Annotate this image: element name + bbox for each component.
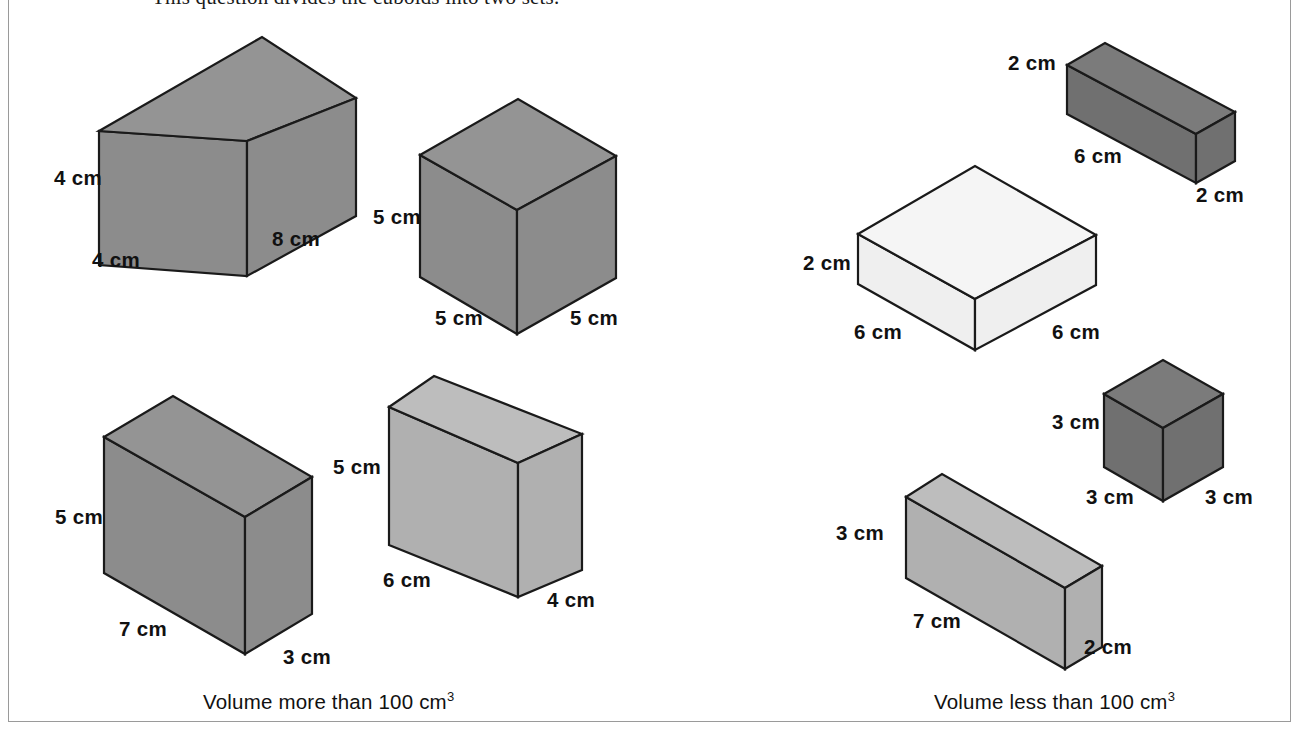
label-2x6x2-width: 2 cm xyxy=(1196,183,1244,207)
caption-right-exponent: 3 xyxy=(1168,689,1175,704)
caption-volume-more-than-100: Volume more than 100 cm3 xyxy=(203,690,454,714)
cuboids-figure: .edge { stroke: #1a1a1a; stroke-width: 2… xyxy=(0,0,1309,753)
label-3x7x2-width: 2 cm xyxy=(1084,635,1132,659)
label-5x7x3-height: 5 cm xyxy=(55,505,103,529)
caption-right-text: Volume less than 100 cm xyxy=(934,690,1168,713)
cube-3-by-3-by-3-shape xyxy=(1104,360,1223,501)
caption-left-exponent: 3 xyxy=(447,689,454,704)
label-3x7x2-height: 3 cm xyxy=(836,521,884,545)
cuboid-3-by-7-by-2-shape xyxy=(906,474,1102,669)
label-5x7x3-depth: 7 cm xyxy=(119,617,167,641)
label-4x4x8-height: 4 cm xyxy=(54,166,102,190)
figure-page: This question divides the cuboids into t… xyxy=(0,0,1309,753)
label-3x3x3-depth: 3 cm xyxy=(1086,485,1134,509)
label-3x7x2-depth: 7 cm xyxy=(913,609,961,633)
label-2x6x6-height: 2 cm xyxy=(803,251,851,275)
label-3x3x3-height: 3 cm xyxy=(1052,410,1100,434)
label-2x6x2-depth: 6 cm xyxy=(1074,144,1122,168)
label-5x6x4-width: 4 cm xyxy=(547,588,595,612)
label-2x6x6-width: 6 cm xyxy=(1052,320,1100,344)
caption-left-text: Volume more than 100 cm xyxy=(203,690,447,713)
cube-5-by-5-by-5-shape xyxy=(420,99,616,334)
label-3x3x3-width: 3 cm xyxy=(1205,485,1253,509)
label-5x6x4-depth: 6 cm xyxy=(383,568,431,592)
label-2x6x2-height: 2 cm xyxy=(1008,51,1056,75)
label-5x5x5-depth: 5 cm xyxy=(435,306,483,330)
cuboid-5-by-7-by-3-shape xyxy=(104,396,312,654)
label-5x6x4-height: 5 cm xyxy=(333,455,381,479)
label-2x6x6-depth: 6 cm xyxy=(854,320,902,344)
label-4x4x8-width: 8 cm xyxy=(272,227,320,251)
label-5x7x3-width: 3 cm xyxy=(283,645,331,669)
cuboid-5-by-6-by-4-shape xyxy=(389,376,582,597)
caption-volume-less-than-100: Volume less than 100 cm3 xyxy=(934,690,1175,714)
label-4x4x8-depth: 4 cm xyxy=(92,248,140,272)
label-5x5x5-width: 5 cm xyxy=(570,306,618,330)
label-5x5x5-height: 5 cm xyxy=(373,205,421,229)
